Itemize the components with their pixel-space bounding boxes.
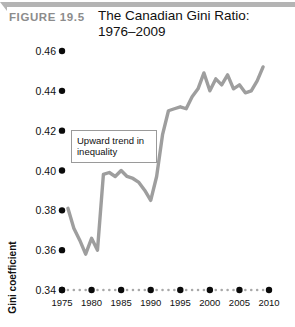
x-axis-major-tick: [207, 287, 213, 293]
y-axis-tick: [59, 287, 65, 293]
x-axis-minor-tick: [102, 289, 105, 292]
y-axis-tick: [59, 167, 65, 173]
x-axis-minor-tick: [262, 289, 265, 292]
x-axis-minor-tick: [197, 289, 200, 292]
x-axis-tick-label: 1980: [77, 297, 107, 308]
x-axis-minor-tick: [220, 289, 223, 292]
y-axis-tick: [59, 127, 65, 133]
x-axis-minor-tick: [67, 289, 70, 292]
x-axis-minor-tick: [256, 289, 259, 292]
y-axis-ticks: [59, 48, 65, 293]
x-axis-major-tick: [148, 287, 154, 293]
y-axis-tick: [59, 207, 65, 213]
x-axis-minor-tick: [167, 289, 170, 292]
x-axis-tick-label: 1995: [165, 297, 195, 308]
x-axis-minor-tick: [173, 289, 176, 292]
x-axis-minor-tick: [191, 289, 194, 292]
x-axis-minor-tick: [108, 289, 111, 292]
y-axis-tick-label: 0.46: [26, 45, 56, 57]
x-axis-minor-tick: [214, 289, 217, 292]
x-axis-minor-tick: [155, 289, 158, 292]
x-axis-minor-tick: [185, 289, 188, 292]
y-axis-tick-label: 0.42: [26, 125, 56, 137]
figure-header: FIGURE 19.5 The Canadian Gini Ratio: 197…: [0, 0, 295, 40]
figure-title: The Canadian Gini Ratio: 1976–2009: [98, 8, 288, 39]
x-axis-major-tick: [177, 287, 183, 293]
y-axis-tick-label: 0.38: [26, 204, 56, 216]
x-axis-minor-tick: [73, 289, 76, 292]
y-axis-tick-label: 0.34: [26, 284, 56, 296]
chart-plot-area: 0.460.440.420.400.380.360.34 19751980198…: [0, 40, 295, 327]
x-axis-minor-tick: [244, 289, 247, 292]
x-axis-major-tick: [88, 287, 94, 293]
x-axis-minor-tick: [161, 289, 164, 292]
y-axis-tick-label: 0.40: [26, 165, 56, 177]
y-axis-tick: [59, 48, 65, 54]
x-axis-major-tick: [266, 287, 272, 293]
x-axis-tick-label: 2010: [254, 297, 284, 308]
x-axis-tick-label: 2005: [224, 297, 254, 308]
y-axis-tick: [59, 247, 65, 253]
x-axis-tick-label: 1985: [106, 297, 136, 308]
x-axis-minor-tick: [114, 289, 117, 292]
x-axis-tick-label: 1990: [136, 297, 166, 308]
y-axis-tick-label: 0.44: [26, 85, 56, 97]
x-axis-minor-tick: [203, 289, 206, 292]
x-axis-minor-tick: [138, 289, 141, 292]
x-axis-minor-tick: [226, 289, 229, 292]
x-axis-major-ticks: [59, 287, 272, 293]
x-axis-minor-ticks: [67, 289, 265, 292]
x-axis-minor-tick: [144, 289, 147, 292]
y-axis-tick-label: 0.36: [26, 244, 56, 256]
x-axis-tick-label: 2000: [195, 297, 225, 308]
header-rule: [6, 2, 295, 7]
x-axis-minor-tick: [84, 289, 87, 292]
x-axis-tick-label: 1975: [47, 297, 77, 308]
x-axis-major-tick: [236, 287, 242, 293]
y-axis-title: Gini coefficient: [7, 230, 18, 326]
x-axis-minor-tick: [250, 289, 253, 292]
x-axis-minor-tick: [132, 289, 135, 292]
x-axis-minor-tick: [96, 289, 99, 292]
x-axis-minor-tick: [232, 289, 235, 292]
x-axis-major-tick: [118, 287, 124, 293]
x-axis-minor-tick: [126, 289, 129, 292]
y-axis-tick: [59, 88, 65, 94]
trend-annotation: Upward trend in inequality: [71, 130, 157, 163]
x-axis-minor-tick: [78, 289, 81, 292]
figure-number: FIGURE 19.5: [9, 11, 85, 23]
